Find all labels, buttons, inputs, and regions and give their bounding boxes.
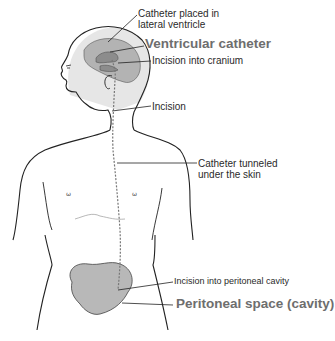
label-incision-peritoneal: Incision into peritoneal cavity <box>174 277 289 287</box>
arm-left-inner <box>43 182 52 230</box>
peritoneal-cavity <box>70 263 132 315</box>
waist-right <box>153 235 168 330</box>
label-catheter-placed: Catheter placed in lateral ventricle <box>138 8 219 30</box>
arm-right-inner <box>152 188 162 240</box>
label-incision-cranium: Incision into cranium <box>152 55 243 66</box>
svg-text:ω: ω <box>132 190 137 197</box>
label-incision: Incision <box>152 101 186 112</box>
label-ventricular-catheter: Ventricular catheter <box>145 37 271 52</box>
torso-right <box>134 130 193 240</box>
rib-line <box>75 214 125 219</box>
waist-left <box>37 235 52 330</box>
svg-text:ω: ω <box>66 190 71 197</box>
torso-left <box>13 130 110 240</box>
label-peritoneal-space: Peritoneal space (cavity) <box>176 297 334 312</box>
label-catheter-tunneled: Catheter tunneled under the skin <box>198 158 278 180</box>
